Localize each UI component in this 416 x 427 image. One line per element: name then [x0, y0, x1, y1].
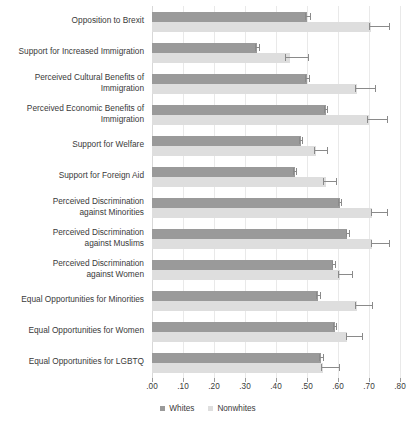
error-bar-nonwhites [367, 115, 387, 125]
bar-nonwhites [152, 363, 323, 373]
y-axis-label: Perceived Cultural Benefits of Immigrati… [35, 72, 144, 92]
x-axis: .00.10.20.30.40.50.60.70.80 [152, 378, 400, 394]
error-bar-line [355, 305, 373, 306]
error-bar-nonwhites [321, 363, 340, 373]
error-bar-whites [338, 198, 342, 208]
x-axis-tick-label: .80 [394, 382, 405, 391]
x-axis-tick-label: .70 [363, 382, 374, 391]
error-bar-cap-high [352, 271, 353, 278]
bar-whites [152, 74, 307, 84]
bar-nonwhites [152, 239, 372, 249]
error-bar-cap-low [299, 137, 300, 144]
error-bar-cap-high [336, 178, 337, 185]
bar-chart: Opposition to BrexitSupport for Increase… [0, 0, 416, 427]
error-bar-cap-high [387, 116, 388, 123]
legend-swatch [160, 406, 165, 411]
error-bar-whites [332, 260, 337, 270]
error-bar-cap-high [336, 323, 337, 330]
error-bar-whites [346, 229, 351, 239]
error-bar-nonwhites [371, 208, 389, 218]
bar-whites [152, 12, 307, 22]
x-axis-tick-label: .50 [301, 382, 312, 391]
error-bar-cap-low [355, 85, 356, 92]
bar-group [152, 167, 400, 187]
y-axis-label: Perceived Discrimination against Minorit… [53, 196, 144, 216]
legend-label: Whites [169, 404, 194, 413]
bar-group [152, 43, 400, 63]
bar-nonwhites [152, 270, 340, 280]
y-axis-label: Support for Welfare [72, 139, 144, 149]
error-bar-line [355, 88, 376, 89]
error-bar-nonwhites [338, 270, 353, 280]
error-bar-cap-low [305, 13, 306, 20]
error-bar-cap-high [339, 364, 340, 371]
error-bar-cap-high [362, 333, 363, 340]
bar-whites [152, 198, 340, 208]
bar-whites [152, 105, 326, 115]
error-bar-cap-low [285, 54, 286, 61]
bar-nonwhites [152, 332, 347, 342]
error-bar-nonwhites [369, 22, 390, 32]
error-bar-nonwhites [346, 332, 363, 342]
bar-group [152, 229, 400, 249]
error-bar-whites [305, 74, 310, 84]
error-bar-nonwhites [285, 53, 309, 63]
bar-group [152, 136, 400, 156]
error-bar-cap-low [346, 333, 347, 340]
x-axis-tick-label: .40 [270, 382, 281, 391]
y-axis-label: Equal Opportunities for LGBTQ [29, 356, 144, 366]
bar-whites [152, 43, 257, 53]
y-axis-label: Equal Opportunities for Minorities [21, 294, 144, 304]
error-bar-line [371, 212, 389, 213]
y-axis-label: Perceived Economic Benefits of Immigrati… [27, 103, 144, 123]
error-bar-cap-high [341, 199, 342, 206]
error-bar-line [371, 243, 391, 244]
error-bar-cap-low [316, 292, 317, 299]
error-bar-cap-low [293, 168, 294, 175]
error-bar-cap-high [327, 106, 328, 113]
error-bar-whites [316, 291, 321, 301]
error-bar-nonwhites [314, 146, 328, 156]
error-bar-cap-high [349, 230, 350, 237]
bar-nonwhites [152, 115, 369, 125]
plot-area [152, 6, 400, 378]
error-bar-cap-high [389, 240, 390, 247]
error-bar-cap-low [324, 106, 325, 113]
error-bar-whites [299, 136, 303, 146]
error-bar-cap-low [332, 261, 333, 268]
error-bar-cap-low [319, 354, 320, 361]
error-bar-cap-low [321, 364, 322, 371]
bar-nonwhites [152, 53, 290, 63]
error-bar-cap-high [309, 75, 310, 82]
x-axis-tick-label: .60 [332, 382, 343, 391]
error-bar-nonwhites [355, 301, 373, 311]
error-bar-line [367, 119, 387, 120]
error-bar-line [338, 274, 353, 275]
error-bar-cap-low [371, 240, 372, 247]
bar-group [152, 291, 400, 311]
y-axis-label: Perceived Discrimination against Muslims [53, 227, 144, 247]
error-bar-cap-high [327, 147, 328, 154]
bar-whites [152, 353, 321, 363]
y-axis-label: Support for Increased Immigration [19, 46, 144, 56]
x-axis-tick-label: .10 [177, 382, 188, 391]
bar-nonwhites [152, 177, 326, 187]
x-axis-tick-label: .30 [239, 382, 250, 391]
y-axis-label: Support for Foreign Aid [59, 170, 144, 180]
error-bar-whites [319, 353, 324, 363]
error-bar-cap-high [389, 23, 390, 30]
error-bar-cap-high [320, 292, 321, 299]
error-bar-cap-low [355, 302, 356, 309]
bar-nonwhites [152, 208, 372, 218]
bar-whites [152, 136, 301, 146]
y-axis-label: Opposition to Brexit [72, 15, 144, 25]
error-bar-line [323, 181, 337, 182]
bar-group [152, 322, 400, 342]
bar-whites [152, 291, 318, 301]
error-bar-nonwhites [323, 177, 337, 187]
x-axis-tick-label: .00 [146, 382, 157, 391]
error-bar-cap-high [302, 137, 303, 144]
error-bar-cap-high [387, 209, 388, 216]
error-bar-cap-high [335, 261, 336, 268]
error-bar-nonwhites [371, 239, 391, 249]
